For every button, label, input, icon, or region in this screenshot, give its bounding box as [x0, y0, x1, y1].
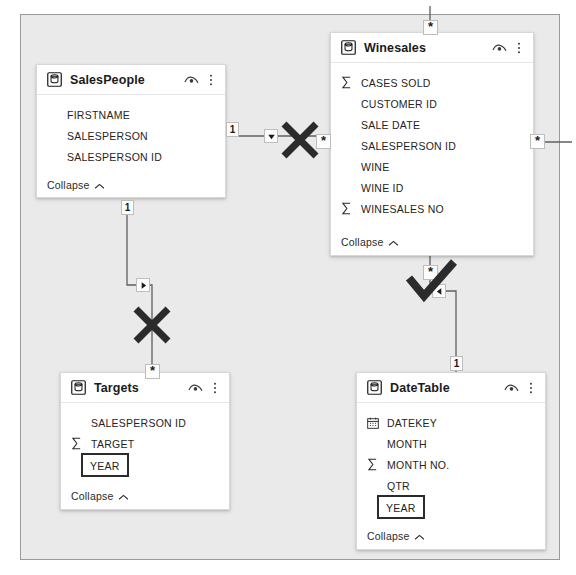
- hide-eye-icon[interactable]: [491, 40, 509, 56]
- field-label: SALESPERSON ID: [67, 151, 162, 163]
- field-row[interactable]: SALESPERSON ID: [37, 146, 225, 167]
- sigma-icon: [71, 437, 91, 450]
- field-label: TARGET: [91, 438, 134, 450]
- table-card-targets[interactable]: Targets SALESPERSON ID: [60, 372, 230, 510]
- field-row[interactable]: DATEKEY: [357, 412, 545, 433]
- table-header-salespeople[interactable]: SalesPeople: [37, 65, 225, 95]
- field-row[interactable]: MONTH: [357, 433, 545, 454]
- field-row-selected[interactable]: YEAR: [61, 454, 229, 475]
- sigma-icon: [341, 76, 361, 89]
- collapse-control-datetable[interactable]: Collapse: [357, 522, 545, 549]
- field-row[interactable]: FIRSTNAME: [37, 104, 225, 125]
- table-card-datetable[interactable]: DateTable: [356, 372, 546, 550]
- field-label: MONTH NO.: [387, 459, 449, 471]
- cardinality-badge-many[interactable]: *: [423, 20, 438, 35]
- field-list-salespeople: FIRSTNAME SALESPERSON SALESPERSON ID: [37, 95, 225, 171]
- field-label: WINE: [361, 161, 389, 173]
- field-row[interactable]: TARGET: [61, 433, 229, 454]
- hide-eye-icon[interactable]: [187, 380, 205, 396]
- field-row[interactable]: WINE ID: [331, 177, 533, 198]
- calendar-icon: [367, 417, 387, 429]
- triangle-down-icon[interactable]: [264, 129, 278, 143]
- sigma-icon: [341, 202, 361, 215]
- field-label: CASES SOLD: [361, 77, 431, 89]
- more-options-icon[interactable]: [210, 380, 220, 396]
- field-label: SALESPERSON ID: [361, 140, 456, 152]
- table-card-salespeople[interactable]: SalesPeople FIRSTNAME: [36, 64, 226, 198]
- field-label: DATEKEY: [387, 417, 437, 429]
- check-mark-icon: [405, 258, 459, 308]
- cardinality-badge-one[interactable]: 1: [226, 122, 239, 137]
- table-icon: [71, 380, 86, 395]
- field-row[interactable]: WINESALES NO: [331, 198, 533, 219]
- collapse-control-salespeople[interactable]: Collapse: [37, 171, 225, 198]
- table-icon: [47, 72, 62, 87]
- collapse-control-targets[interactable]: Collapse: [61, 482, 229, 509]
- hide-eye-icon[interactable]: [503, 380, 521, 396]
- field-row[interactable]: SALESPERSON ID: [61, 412, 229, 433]
- field-row[interactable]: WINE: [331, 156, 533, 177]
- field-row-selected[interactable]: YEAR: [357, 496, 545, 517]
- field-list-targets: SALESPERSON ID TARGET YEAR: [61, 403, 229, 482]
- field-highlight-box: YEAR: [81, 453, 129, 477]
- chevron-up-icon: [118, 487, 129, 505]
- more-options-icon[interactable]: [206, 72, 216, 88]
- hide-eye-icon[interactable]: [183, 72, 201, 88]
- more-options-icon[interactable]: [514, 40, 524, 56]
- chevron-up-icon: [388, 233, 399, 251]
- field-label: CUSTOMER ID: [361, 98, 437, 110]
- field-label: WINESALES NO: [361, 203, 444, 215]
- table-header-winesales[interactable]: Winesales: [331, 33, 533, 63]
- chevron-up-icon: [414, 527, 425, 545]
- field-row[interactable]: CUSTOMER ID: [331, 93, 533, 114]
- field-row[interactable]: SALESPERSON: [37, 125, 225, 146]
- collapse-label: Collapse: [341, 236, 383, 248]
- cardinality-badge-one[interactable]: 1: [121, 200, 134, 215]
- table-title-salespeople: SalesPeople: [70, 73, 183, 87]
- field-label: SALE DATE: [361, 119, 420, 131]
- field-row[interactable]: SALESPERSON ID: [331, 135, 533, 156]
- table-title-winesales: Winesales: [364, 41, 491, 55]
- field-label: YEAR: [90, 460, 120, 472]
- cardinality-badge-many[interactable]: *: [145, 364, 160, 379]
- triangle-right-icon[interactable]: [136, 278, 150, 292]
- sigma-icon: [367, 458, 387, 471]
- field-label: SALESPERSON ID: [91, 417, 186, 429]
- field-list-datetable: DATEKEY MONTH MONTH NO. QTR: [357, 403, 545, 522]
- collapse-label: Collapse: [71, 490, 113, 502]
- table-title-targets: Targets: [94, 381, 187, 395]
- field-label: MONTH: [387, 438, 427, 450]
- collapse-control-winesales[interactable]: Collapse: [331, 228, 533, 255]
- table-card-winesales[interactable]: Winesales: [330, 32, 534, 256]
- model-view-screenshot: SalesPeople FIRSTNAME: [0, 0, 576, 575]
- cardinality-badge-many[interactable]: *: [530, 134, 545, 149]
- chevron-up-icon: [94, 176, 105, 194]
- field-row[interactable]: SALE DATE: [331, 114, 533, 135]
- field-list-winesales: CASES SOLD CUSTOMER ID SALE DATE SALESPE…: [331, 63, 533, 228]
- field-label: WINE ID: [361, 182, 404, 194]
- x-mark-icon: [280, 120, 320, 164]
- cardinality-badge-one[interactable]: 1: [450, 356, 463, 371]
- field-label: FIRSTNAME: [67, 109, 130, 121]
- field-label: SALESPERSON: [67, 130, 148, 142]
- collapse-label: Collapse: [47, 179, 89, 191]
- table-icon: [341, 40, 356, 55]
- x-mark-icon: [132, 305, 172, 349]
- field-row[interactable]: MONTH NO.: [357, 454, 545, 475]
- table-icon: [367, 380, 382, 395]
- more-options-icon[interactable]: [526, 380, 536, 396]
- field-row[interactable]: CASES SOLD: [331, 72, 533, 93]
- field-label: QTR: [387, 480, 410, 492]
- table-title-datetable: DateTable: [390, 381, 503, 395]
- field-highlight-box: YEAR: [377, 495, 425, 519]
- table-header-datetable[interactable]: DateTable: [357, 373, 545, 403]
- field-row[interactable]: QTR: [357, 475, 545, 496]
- collapse-label: Collapse: [367, 530, 409, 542]
- field-label: YEAR: [386, 502, 416, 514]
